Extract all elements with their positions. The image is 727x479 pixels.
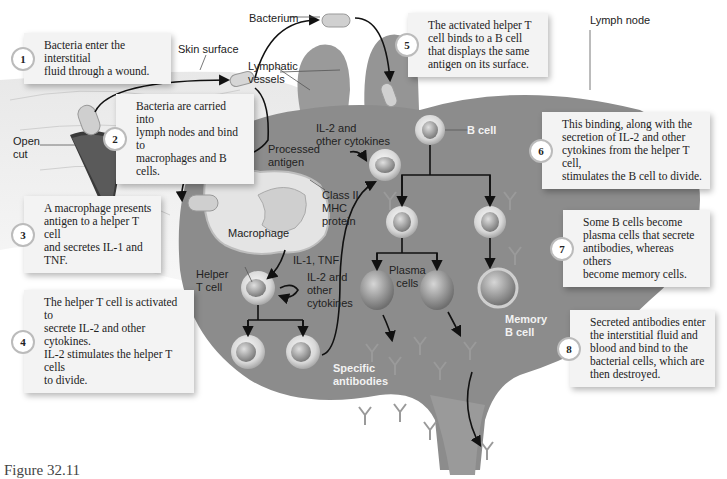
bacterium-icon [322, 14, 350, 27]
step-number-7: 7 [550, 237, 574, 261]
label-helper-t-cell: Helper T cell [196, 268, 228, 294]
step-box-6: 6 This binding, along with the secretion… [542, 112, 710, 189]
step-number-6: 6 [529, 139, 553, 163]
label-plasma-cells: Plasma cells [389, 264, 426, 290]
label-macrophage: Macrophage [228, 227, 289, 240]
step-number-3: 3 [11, 223, 35, 247]
step-box-3: 3 A macrophage presents antigen to a hel… [24, 196, 161, 273]
label-open-cut: Open cut [13, 135, 40, 161]
step-number-1: 1 [11, 47, 35, 71]
label-skin-surface: Skin surface [178, 43, 239, 56]
label-memory-b-cell: Memory B cell [505, 313, 547, 339]
step-number-5: 5 [395, 33, 419, 57]
step-number-2: 2 [103, 127, 127, 151]
step-text-3: A macrophage presents antigen to a helpe… [24, 196, 161, 273]
label-il2-cytokines-bottom: IL-2 and other cytokines [307, 271, 353, 310]
step-text-2: Bacteria are carried into lymph nodes an… [116, 94, 254, 184]
label-specific-antibodies: Specific antibodies [333, 362, 388, 388]
step-box-1: 1 Bacteria enter the interstitial fluid … [24, 33, 171, 84]
step-number-4: 4 [11, 330, 35, 354]
label-il2-cytokines-top: IL-2 and other cytokines [316, 122, 390, 148]
step-text-4: The helper T cell is activated to secret… [24, 290, 194, 393]
label-il1-tnf: IL-1, TNF [293, 254, 339, 267]
step-box-2: 2 Bacteria are carried into lymph nodes … [116, 94, 254, 184]
step-text-6: This binding, along with the secretion o… [542, 112, 710, 189]
step-box-4: 4 The helper T cell is activated to secr… [24, 290, 194, 393]
label-b-cell: B cell [467, 124, 496, 137]
step-number-8: 8 [557, 337, 581, 361]
label-lymphatic-vessels: Lymphatic vessels [248, 60, 298, 86]
figure-caption: Figure 32.11 [4, 462, 80, 479]
label-class-ii-mhc: Class II MHC protein [322, 189, 359, 228]
step-box-5: 5 The activated helper T cell binds to a… [408, 13, 548, 77]
step-text-7: Some B cells become plasma cells that se… [563, 210, 710, 287]
step-text-1: Bacteria enter the interstitial fluid th… [24, 33, 171, 84]
step-text-8: Secreted antibodies enter the interstiti… [570, 310, 715, 387]
step-box-8: 8 Secreted antibodies enter the intersti… [570, 310, 715, 387]
label-lymph-node: Lymph node [590, 14, 650, 27]
label-bacterium: Bacterium [249, 12, 299, 25]
step-text-5: The activated helper T cell binds to a B… [408, 13, 548, 77]
step-box-7: 7 Some B cells become plasma cells that … [563, 210, 710, 287]
label-processed-antigen: Processed antigen [268, 143, 320, 169]
